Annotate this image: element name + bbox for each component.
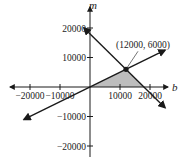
y-tick-label: 10000: [62, 53, 86, 63]
y-tick-label: −10000: [57, 112, 86, 122]
x-tick-label: −20000: [15, 91, 44, 101]
intersection-point: [123, 67, 128, 72]
annotation-label: (12000, 6000): [116, 40, 170, 51]
x-tick-label: 20000: [138, 91, 162, 101]
x-axis-label: b: [172, 81, 178, 93]
series-line-1: [24, 50, 165, 119]
x-tick-label: 10000: [108, 91, 132, 101]
y-axis-label: m: [89, 0, 97, 11]
x-tick-label: −10000: [45, 91, 74, 101]
chart: b m −20000−1000010000200002000010000−100…: [0, 0, 179, 159]
y-tick-label: −20000: [57, 142, 86, 152]
y-tick-label: 20000: [62, 24, 86, 34]
